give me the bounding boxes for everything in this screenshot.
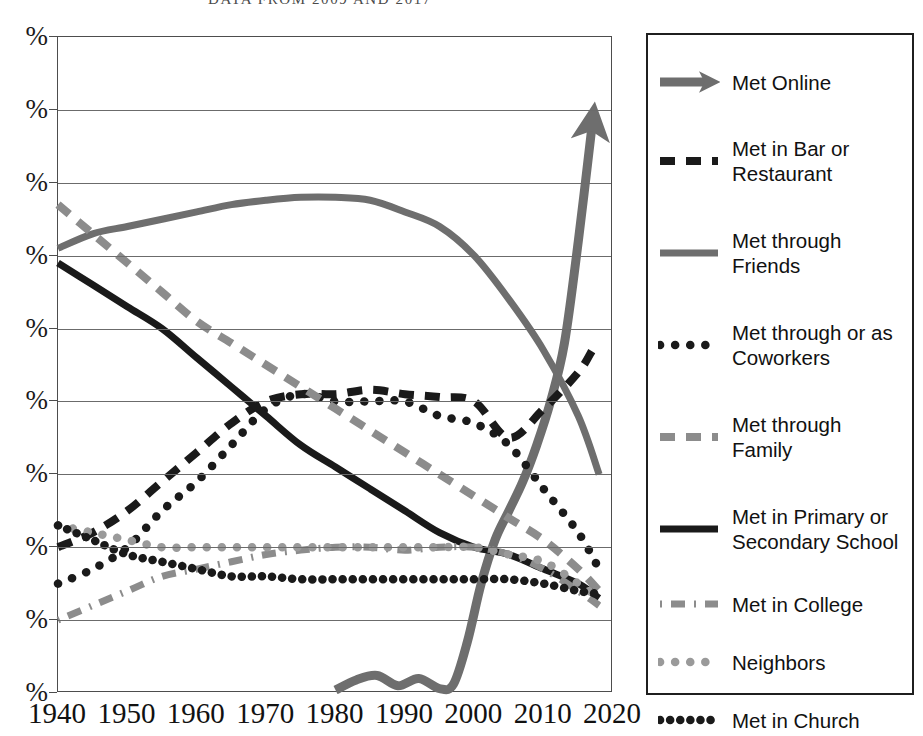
x-tick-label: 1990 [375, 697, 433, 730]
met-coworkers-swatch [658, 332, 720, 358]
y-tick-mark [49, 36, 57, 37]
legend-item-label: Met through Family [732, 412, 904, 462]
chart-legend: Met OnlineMet in Bar or RestaurantMet th… [646, 33, 914, 695]
y-axis: %%%%%%%%%% [0, 36, 52, 692]
x-axis: 194019501960197019801990200020102020 [57, 697, 612, 736]
chart-subtitle: DATA FROM 2009 AND 2017 [0, 0, 640, 8]
legend-item[interactable]: Neighbors [648, 633, 912, 691]
gridline [58, 256, 611, 257]
x-tick-label: 1950 [97, 697, 155, 730]
legend-item-label: Met in Primary or Secondary School [732, 504, 904, 554]
y-tick-label: % [26, 458, 49, 489]
x-tick-label: 1980 [306, 697, 364, 730]
x-tick-label: 2000 [444, 697, 502, 730]
met-family-swatch [658, 424, 720, 450]
met-college-swatch [658, 591, 720, 617]
legend-item[interactable]: Met through or as Coworkers [648, 299, 912, 391]
met-bar-restaurant-swatch [658, 148, 720, 174]
y-tick-mark [49, 182, 57, 183]
neighbors-swatch [658, 649, 720, 675]
met-online-swatch [658, 69, 720, 95]
legend-item[interactable]: Met Online [648, 49, 912, 115]
legend-item-label: Met through or as Coworkers [732, 320, 904, 370]
y-tick-label: % [26, 21, 49, 52]
x-tick-label: 2010 [514, 697, 572, 730]
y-tick-mark [49, 619, 57, 620]
legend-item[interactable]: Met through Friends [648, 207, 912, 299]
gridline [58, 474, 611, 475]
y-tick-mark [49, 692, 57, 693]
legend-item-label: Met Online [732, 70, 831, 95]
x-tick-label: 1940 [28, 697, 86, 730]
y-tick-mark [49, 473, 57, 474]
plot-area [57, 36, 612, 692]
y-tick-mark [49, 328, 57, 329]
x-tick-label: 1960 [167, 697, 225, 730]
legend-item[interactable]: Met in Church [648, 691, 912, 736]
y-tick-mark [49, 546, 57, 547]
x-tick-label: 1970 [236, 697, 294, 730]
legend-item-label: Met in Church [732, 708, 860, 733]
legend-item[interactable]: Met in Bar or Restaurant [648, 115, 912, 207]
legend-item[interactable]: Met through Family [648, 391, 912, 483]
y-tick-label: % [26, 604, 49, 635]
y-tick-mark [49, 255, 57, 256]
gridline [58, 329, 611, 330]
y-tick-label: % [26, 166, 49, 197]
y-tick-label: % [26, 93, 49, 124]
legend-item[interactable]: Met in College [648, 575, 912, 633]
gridline [58, 183, 611, 184]
y-tick-label: % [26, 239, 49, 270]
legend-item-label: Neighbors [732, 650, 825, 675]
y-tick-label: % [26, 531, 49, 562]
gridline [58, 401, 611, 402]
series-line-met-online [336, 124, 593, 690]
y-tick-mark [49, 109, 57, 110]
legend-item-label: Met through Friends [732, 228, 904, 278]
y-tick-label: % [26, 385, 49, 416]
y-tick-mark [49, 400, 57, 401]
y-tick-label: % [26, 312, 49, 343]
met-school-swatch [658, 516, 720, 542]
legend-item-label: Met in College [732, 592, 863, 617]
met-church-swatch [658, 707, 720, 733]
met-friends-swatch [658, 240, 720, 266]
gridline [58, 547, 611, 548]
gridline [58, 110, 611, 111]
x-tick-label: 2020 [583, 697, 641, 730]
gridline [58, 620, 611, 621]
legend-item[interactable]: Met in Primary or Secondary School [648, 483, 912, 575]
legend-item-label: Met in Bar or Restaurant [732, 136, 904, 186]
chart-canvas [58, 37, 613, 693]
